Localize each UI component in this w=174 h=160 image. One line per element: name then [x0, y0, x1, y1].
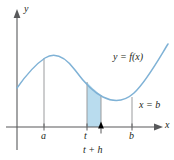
- marker-label-t-plus-h: t + h: [83, 145, 103, 155]
- tick-label-a: a: [41, 131, 46, 141]
- function-annotation-label: y = f(x): [113, 52, 143, 62]
- shaded-area-strip: [87, 82, 101, 127]
- y-axis-label: y: [24, 4, 28, 14]
- vertical-line-annotation-label: x = b: [139, 100, 160, 110]
- x-axis-arrowhead: [154, 124, 163, 131]
- tick-label-t: t: [84, 131, 87, 141]
- tick-label-b: b: [129, 131, 134, 141]
- calculus-area-function-diagram: y x a t b t + h y = f(x) x = b: [0, 0, 174, 160]
- diagram-canvas: [0, 0, 174, 160]
- x-axis-label: x: [165, 120, 169, 130]
- y-axis-arrowhead: [14, 9, 21, 18]
